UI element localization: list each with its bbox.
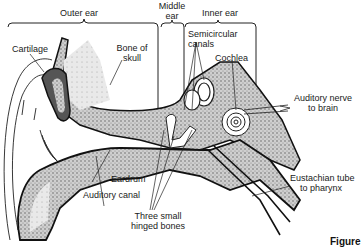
region-label-middle-ear: Middle ear <box>158 1 186 21</box>
figure-caption: Figure <box>330 236 361 247</box>
auditory-nerve-line1: Auditory nerve <box>290 93 356 103</box>
label-cartilage: Cartilage <box>12 44 48 54</box>
semicircular-line1: Semicircular <box>188 29 238 39</box>
label-three-small-hinged-bones: Three small hinged bones <box>130 211 186 231</box>
cochlea-shape <box>222 108 250 136</box>
label-auditory-nerve: Auditory nerve to brain <box>290 93 356 113</box>
label-bone-of-skull: Bone of skull <box>114 43 150 63</box>
label-auditory-canal: Auditory canal <box>83 190 140 200</box>
region-label-outer-ear: Outer ear <box>60 8 98 18</box>
eustachian-line2: to pharynx <box>290 183 355 193</box>
label-eustachian-tube: Eustachian tube to pharynx <box>290 173 355 193</box>
label-cochlea: Cochlea <box>215 53 248 63</box>
label-eardrum: Eardrum <box>111 174 146 184</box>
bone-of-skull-line1: Bone of <box>114 43 150 53</box>
bone-of-skull-line2: skull <box>114 53 150 63</box>
middle-ear-line1: Middle <box>158 1 186 11</box>
semicircular-line2: canals <box>188 39 238 49</box>
three-bones-line2: hinged bones <box>130 221 186 231</box>
label-semicircular-canals: Semicircular canals <box>188 29 238 49</box>
auditory-nerve-line2: to brain <box>290 103 356 113</box>
eustachian-line1: Eustachian tube <box>290 173 355 183</box>
middle-ear-line2: ear <box>158 11 186 21</box>
region-label-inner-ear: Inner ear <box>202 8 238 18</box>
three-bones-line1: Three small <box>130 211 186 221</box>
